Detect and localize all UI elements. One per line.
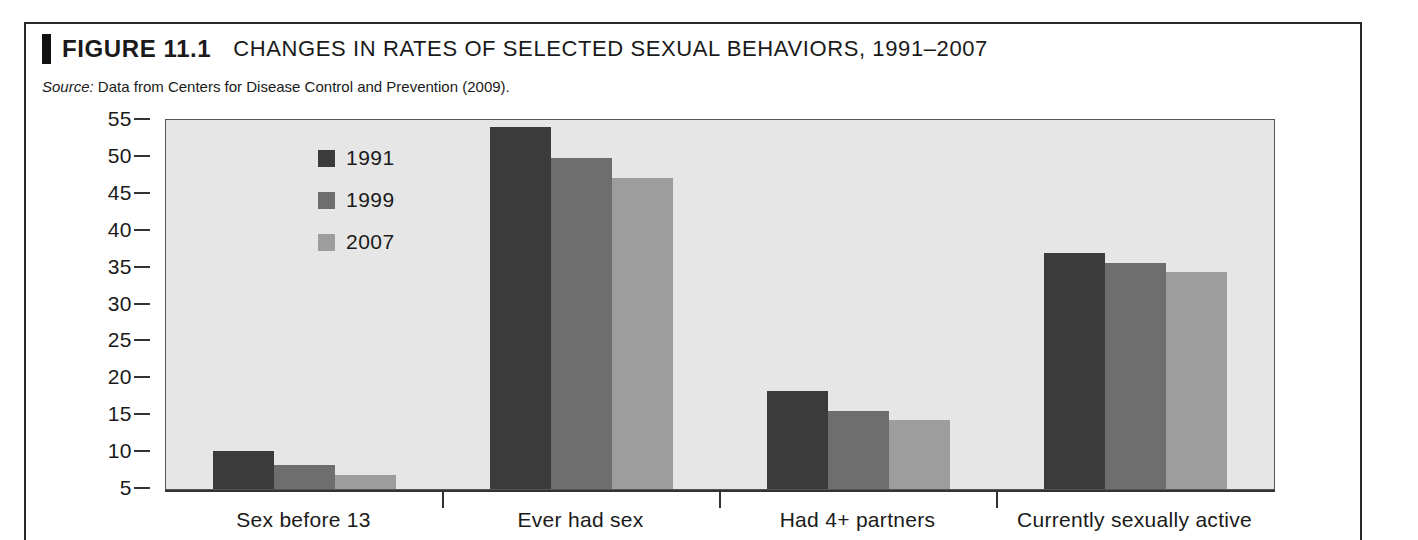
x-category-label: Currently sexually active [1017, 508, 1252, 532]
x-category-label: Had 4+ partners [780, 508, 936, 532]
y-tick-mark [134, 376, 150, 378]
y-tick-mark [134, 266, 150, 268]
y-tick-label: 45 [108, 181, 132, 205]
y-tick-label: 20 [108, 365, 132, 389]
page-border-top [24, 22, 1362, 24]
y-tick-label: 50 [108, 144, 132, 168]
bar [767, 391, 828, 489]
y-tick-mark [134, 229, 150, 231]
y-tick-mark [134, 303, 150, 305]
bar [490, 127, 551, 489]
legend-item[interactable]: 2007 [318, 226, 395, 258]
y-tick-label: 40 [108, 218, 132, 242]
bar-chart: 510152025303540455055 199119992007 Sex b… [42, 112, 1282, 532]
y-tick-mark [134, 339, 150, 341]
figure-title: CHANGES IN RATES OF SELECTED SEXUAL BEHA… [233, 36, 988, 62]
figure-page: FIGURE 11.1 CHANGES IN RATES OF SELECTED… [0, 0, 1418, 540]
y-axis: 510152025303540455055 [42, 112, 152, 497]
y-tick-label: 35 [108, 255, 132, 279]
x-tick-mark [442, 490, 444, 508]
y-tick-label: 55 [108, 107, 132, 131]
y-tick-mark [134, 450, 150, 452]
y-tick-mark [134, 487, 150, 489]
x-category-label: Ever had sex [517, 508, 643, 532]
legend-swatch-icon [318, 150, 335, 167]
legend-item[interactable]: 1991 [318, 142, 395, 174]
bar [213, 451, 274, 489]
plot-area: 199119992007 [165, 119, 1275, 490]
x-tick-mark [719, 490, 721, 508]
bar [828, 411, 889, 489]
bar [274, 465, 335, 489]
source-text: Data from Centers for Disease Control an… [94, 78, 510, 95]
source-label: Source: [42, 78, 94, 95]
bar [1105, 263, 1166, 489]
y-tick-mark [134, 413, 150, 415]
legend-label: 1999 [346, 188, 395, 212]
y-tick-label: 15 [108, 402, 132, 426]
bar [1166, 272, 1227, 489]
chart-legend: 199119992007 [318, 142, 395, 268]
figure-marker-bar [42, 34, 51, 64]
legend-item[interactable]: 1999 [318, 184, 395, 216]
bar [335, 475, 396, 489]
y-tick-label: 10 [108, 439, 132, 463]
bar [612, 178, 673, 489]
bar [1044, 253, 1105, 489]
y-tick-mark [134, 192, 150, 194]
bar [889, 420, 950, 489]
y-tick-label: 5 [120, 476, 132, 500]
y-tick-label: 25 [108, 328, 132, 352]
x-axis-category-labels: Sex before 13Ever had sexHad 4+ partners… [165, 508, 1275, 540]
legend-label: 2007 [346, 230, 395, 254]
x-axis-ticks [165, 490, 1275, 508]
y-tick-mark [134, 155, 150, 157]
x-category-label: Sex before 13 [236, 508, 371, 532]
legend-swatch-icon [318, 192, 335, 209]
page-border-left [24, 22, 26, 540]
legend-label: 1991 [346, 146, 395, 170]
page-border-right [1360, 22, 1362, 540]
y-tick-mark [134, 118, 150, 120]
figure-number: FIGURE 11.1 [62, 35, 211, 63]
figure-heading: FIGURE 11.1 CHANGES IN RATES OF SELECTED… [62, 33, 988, 65]
bar [551, 158, 612, 489]
figure-source: Source: Data from Centers for Disease Co… [42, 78, 510, 95]
x-tick-mark [996, 490, 998, 508]
y-tick-label: 30 [108, 292, 132, 316]
legend-swatch-icon [318, 234, 335, 251]
